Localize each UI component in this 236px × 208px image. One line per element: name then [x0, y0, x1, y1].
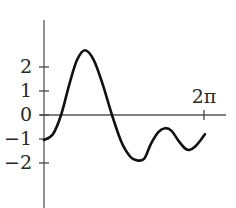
y-tick-label: 1	[20, 79, 32, 101]
y-axis-ticks: 210−1−2	[4, 55, 49, 173]
y-tick-label: 0	[20, 103, 32, 125]
y-tick-label: 2	[20, 55, 32, 77]
x-tick-label: 2π	[192, 85, 217, 107]
series-line	[44, 50, 205, 161]
y-tick-label: −1	[4, 127, 32, 149]
data-series	[44, 50, 205, 161]
line-chart: 210−1−2 2π	[0, 0, 236, 208]
y-tick-label: −2	[4, 151, 32, 173]
axes	[40, 20, 226, 208]
